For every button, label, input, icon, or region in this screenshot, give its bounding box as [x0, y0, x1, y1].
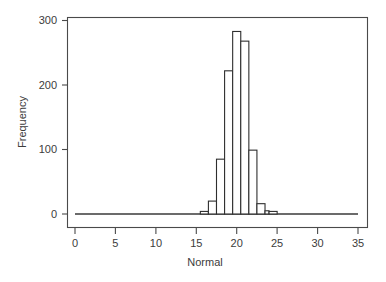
y-axis-ticks — [62, 21, 68, 215]
histogram-bar — [241, 41, 249, 214]
x-tick-label-35: 35 — [352, 237, 364, 249]
histogram-bar — [265, 211, 269, 214]
y-axis-title: Frequency — [16, 96, 28, 148]
x-axis-tick-labels: 0 5 10 15 20 25 30 35 — [72, 237, 364, 249]
y-tick-label-200: 200 — [39, 79, 57, 91]
x-tick-label-5: 5 — [112, 237, 118, 249]
x-tick-label-15: 15 — [190, 237, 202, 249]
histogram-bar — [217, 159, 225, 214]
histogram-bars — [200, 31, 277, 214]
histogram-bar — [249, 150, 257, 214]
histogram-figure: 300 200 100 0 Frequency 0 5 10 15 20 25 … — [0, 0, 386, 282]
y-tick-label-0: 0 — [51, 208, 57, 220]
x-tick-label-10: 10 — [150, 237, 162, 249]
x-axis-ticks — [75, 228, 358, 235]
histogram-bar — [233, 31, 241, 214]
x-tick-label-25: 25 — [271, 237, 283, 249]
y-tick-label-100: 100 — [39, 143, 57, 155]
histogram-bar — [269, 211, 277, 214]
chart-canvas: 300 200 100 0 Frequency 0 5 10 15 20 25 … — [0, 0, 386, 282]
histogram-bar — [208, 201, 216, 214]
x-axis-title: Normal — [187, 256, 222, 268]
y-tick-label-300: 300 — [39, 14, 57, 26]
x-tick-label-0: 0 — [72, 237, 78, 249]
y-axis-tick-labels: 300 200 100 0 — [39, 14, 57, 220]
x-tick-label-20: 20 — [231, 237, 243, 249]
histogram-bar — [225, 71, 233, 214]
histogram-bar — [257, 204, 265, 214]
x-tick-label-30: 30 — [311, 237, 323, 249]
histogram-bar — [200, 211, 208, 214]
